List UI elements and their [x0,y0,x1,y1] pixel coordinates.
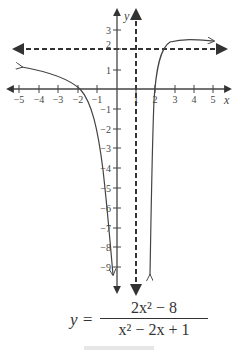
svg-text:−8: −8 [100,242,111,253]
svg-text:−5: −5 [14,94,25,105]
svg-text:1: 1 [106,65,111,76]
svg-text:−1: −1 [100,104,111,115]
svg-text:2: 2 [106,39,111,50]
curve-right-branch [150,40,214,275]
equation-denominator: x² − 2x + 1 [98,320,210,339]
svg-text:5: 5 [211,94,216,105]
function-equation: y = 2x² − 8 x² − 2x + 1 [0,298,238,338]
svg-text:−3: −3 [100,143,111,154]
svg-text:3: 3 [173,94,178,105]
svg-text:−2: −2 [73,94,84,105]
svg-text:−9: −9 [100,262,111,273]
svg-text:−6: −6 [100,203,111,214]
x-axis-label: x [223,93,230,107]
svg-text:1: 1 [134,94,139,105]
svg-text:3: 3 [106,25,111,36]
svg-text:4: 4 [192,94,197,105]
equation-lhs: y = [70,310,93,330]
svg-text:−4: −4 [34,94,45,105]
fraction-bar [100,318,208,319]
y-axis-label: y [123,9,130,23]
svg-text:2: 2 [153,94,158,105]
svg-text:−2: −2 [100,124,111,135]
faint-caption [84,346,154,350]
svg-text:−3: −3 [53,94,64,105]
equation-numerator: 2x² − 8 [98,298,210,317]
equation-fraction: 2x² − 8 x² − 2x + 1 [98,298,210,339]
rational-function-graph: −5 −4 −3 −2 −1 1 2 3 4 5 x 3 2 1 −1 −2 −… [0,0,238,300]
x-tick-labels: −5 −4 −3 −2 −1 1 2 3 4 5 [14,94,216,105]
